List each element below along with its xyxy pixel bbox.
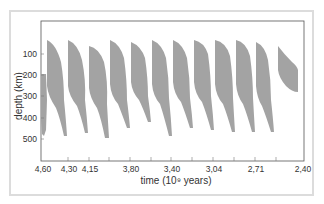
x-tick-3-80: 3,80 xyxy=(123,164,140,174)
x-tick-3-04: 3,04 xyxy=(206,164,223,174)
y-tick-200: 200 xyxy=(23,70,37,80)
y-tick-400: 400 xyxy=(23,113,37,123)
slab-9b xyxy=(236,40,255,132)
slab-0 xyxy=(41,74,47,136)
y-tick-labels: 100 200 300 400 500 xyxy=(23,49,37,144)
x-tick-2-71: 2,71 xyxy=(248,164,265,174)
y-tick-500: 500 xyxy=(23,134,37,144)
slab-1 xyxy=(47,40,67,136)
y-axis-title: depth (km) xyxy=(13,72,24,120)
slab-5 xyxy=(131,42,151,122)
slab-7 xyxy=(173,40,193,128)
slab-8 xyxy=(194,40,214,130)
slab-11 xyxy=(278,46,298,92)
x-axis-title: time (10⁹ years) xyxy=(141,175,212,186)
x-tick-4-60: 4,60 xyxy=(35,164,52,174)
slab-3 xyxy=(89,46,109,138)
x-tick-2-40: 2,40 xyxy=(295,164,312,174)
slab-10 xyxy=(256,42,274,132)
subduction-slabs xyxy=(41,40,298,138)
x-tick-3-40: 3,40 xyxy=(164,164,181,174)
y-tick-100: 100 xyxy=(23,49,37,59)
slab-6 xyxy=(152,40,172,136)
slab-2 xyxy=(68,40,88,133)
chart-svg: 100 200 300 400 500 4,60 4,30 4,15 3,80 … xyxy=(0,0,324,204)
x-ticks xyxy=(68,157,276,161)
x-tick-labels: 4,60 4,30 4,15 3,80 3,40 3,04 2,71 2,40 xyxy=(35,164,312,174)
slab-4 xyxy=(110,40,130,128)
y-tick-300: 300 xyxy=(23,91,37,101)
x-tick-4-15: 4,15 xyxy=(82,164,99,174)
slab-9 xyxy=(215,40,235,132)
x-tick-4-30: 4,30 xyxy=(61,164,78,174)
